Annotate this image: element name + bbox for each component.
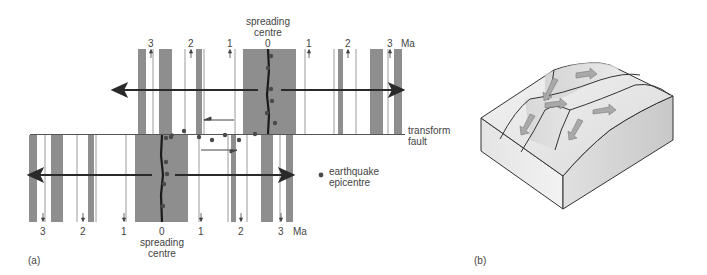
panel-b: (b)	[470, 0, 707, 275]
lower-spreading-centre-label: spreading centre	[132, 237, 192, 259]
transform-fault-label: transform fault	[408, 125, 450, 147]
block-diagram	[470, 0, 707, 275]
upper-spreading-centre-label: spreading centre	[238, 16, 298, 38]
upper-age-unit: Ma	[401, 38, 415, 49]
lower-age-2-right: 2	[238, 226, 244, 237]
upper-age-2-right: 2	[345, 38, 351, 49]
lower-age-3-left: 3	[40, 226, 46, 237]
upper-age-3-right: 3	[387, 38, 393, 49]
label-line: centre	[132, 248, 192, 259]
label-line: earthquake	[329, 166, 379, 177]
label-line: spreading	[132, 237, 192, 248]
panel-a-label: (a)	[28, 255, 40, 266]
lower-age-0: 0	[159, 226, 165, 237]
panel-b-label: (b)	[474, 255, 486, 266]
panel-a: spreading centre 3 2 1 0 1 2 3 Ma 3 2 1 …	[0, 0, 470, 275]
label-line: epicentre	[329, 177, 379, 188]
upper-age-1-left: 1	[227, 38, 233, 49]
lower-age-3-right: 3	[278, 226, 284, 237]
label-line: centre	[238, 27, 298, 38]
lower-age-2-left: 2	[80, 226, 86, 237]
lower-age-1-right: 1	[198, 226, 204, 237]
upper-age-0: 0	[265, 38, 271, 49]
label-line: transform	[408, 125, 450, 136]
upper-age-2-left: 2	[188, 38, 194, 49]
legend-earthquake-epicentre: earthquake epicentre	[329, 166, 379, 188]
upper-anomaly-bands	[138, 49, 402, 134]
ridge-transform-map	[0, 0, 470, 275]
lower-age-1-left: 1	[121, 226, 127, 237]
upper-age-1-right: 1	[306, 38, 312, 49]
upper-age-3-left: 3	[148, 38, 154, 49]
lower-age-unit: Ma	[293, 226, 307, 237]
label-line: spreading	[238, 16, 298, 27]
label-line: fault	[408, 136, 450, 147]
